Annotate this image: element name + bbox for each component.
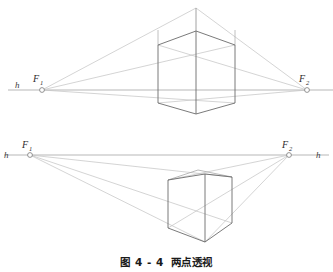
lower-vanishing-point-f2-marker xyxy=(287,153,292,158)
construction-line-f1-cube-right-bottom xyxy=(30,155,232,223)
construction-line-f1-cube-right-top xyxy=(30,155,232,177)
lower-horizon-label-left: h xyxy=(4,150,9,160)
construction-line-f1-cube-front-bottom xyxy=(30,155,205,242)
construction-line-f1-right-top xyxy=(42,45,235,90)
upper-box-bottom-right-edge xyxy=(196,103,235,114)
lower-vanishing-point-f1-marker xyxy=(28,153,33,158)
figure-caption: 图 4 - 4两点透视 xyxy=(0,254,333,269)
lower-construction-lines-from-f1 xyxy=(30,155,232,242)
construction-line-f1-right-bottom xyxy=(42,90,235,103)
construction-line-f2-apex xyxy=(196,8,307,90)
lower-vp-f1-label: F xyxy=(21,139,29,150)
lower-construction-lines-from-f2 xyxy=(168,155,289,242)
upper-horizon-label-left: h xyxy=(15,80,20,90)
lower-diagram: h h F 1 F 2 xyxy=(4,139,329,242)
upper-construction-lines-from-f1 xyxy=(42,8,235,103)
construction-line-f2-cube-left-bottom xyxy=(168,155,289,228)
upper-box-bottom-left-edge xyxy=(158,103,196,114)
upper-box-top-left-edge xyxy=(158,31,196,45)
perspective-drawing-canvas: h F 1 F 2 xyxy=(0,0,333,272)
upper-box xyxy=(158,31,235,114)
upper-vp-f2-label: F xyxy=(298,73,306,84)
cube-bottom-left-edge xyxy=(168,228,205,242)
construction-line-f2-cube-front-bottom xyxy=(205,155,289,242)
cube-bottom-right-edge xyxy=(205,223,232,242)
construction-line-f2-left-top xyxy=(158,45,307,90)
upper-construction-lines-from-f2 xyxy=(158,8,307,103)
upper-vanishing-point-f2-marker xyxy=(305,88,310,93)
lower-cube xyxy=(168,174,232,242)
lower-vp-f2-subscript: 2 xyxy=(289,145,293,152)
upper-diagram: h F 1 F 2 xyxy=(8,8,333,114)
lower-horizon-label-right: h xyxy=(316,150,321,160)
lower-vp-f1-subscript: 1 xyxy=(29,145,32,152)
cube-back-right-top-edge xyxy=(198,170,232,177)
upper-vp-f1-label: F xyxy=(32,73,40,84)
cube-top-left-edge xyxy=(168,174,205,180)
upper-vp-f2-subscript: 2 xyxy=(306,79,310,86)
figure-two-point-perspective: h F 1 F 2 xyxy=(0,0,333,272)
upper-box-top-right-edge xyxy=(196,31,235,45)
lower-vp-f2-label: F xyxy=(281,139,289,150)
figure-caption-title: 两点透视 xyxy=(171,256,213,268)
figure-caption-number: 图 4 - 4 xyxy=(120,256,163,268)
construction-line-f1-apex xyxy=(42,8,196,90)
upper-vanishing-point-f1-marker xyxy=(40,88,45,93)
upper-vp-f1-subscript: 1 xyxy=(40,79,43,86)
construction-line-f2-left-bottom xyxy=(158,90,307,103)
